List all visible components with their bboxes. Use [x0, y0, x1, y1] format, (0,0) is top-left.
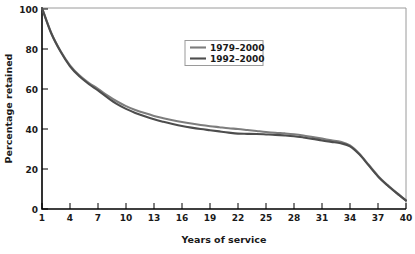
x-tick-label: 31: [316, 213, 329, 223]
x-tick-labels: 1 4 7 10 13 16 19 22 25 28 31 34 37 40: [39, 213, 412, 223]
y-tick-label: 40: [25, 125, 38, 135]
y-tick-labels: 100 80 60 40 20 0: [19, 5, 38, 215]
x-tick-label: 4: [67, 213, 73, 223]
y-tick-label: 0: [32, 205, 38, 215]
series-line-1: [42, 8, 406, 201]
y-tick-marks: [42, 9, 48, 209]
x-tick-label: 40: [400, 213, 413, 223]
axis-lines: [42, 8, 406, 209]
legend-label-series-0: 1979–2000: [210, 43, 265, 53]
data-series-layer: [42, 8, 406, 201]
x-tick-label: 7: [95, 213, 101, 223]
y-tick-label: 60: [25, 85, 38, 95]
x-tick-label: 28: [288, 213, 301, 223]
x-axis-title: Years of service: [181, 234, 267, 245]
y-tick-label: 20: [25, 165, 38, 175]
series-line-0: [42, 8, 406, 200]
x-tick-label: 10: [120, 213, 133, 223]
x-tick-marks: [42, 203, 406, 209]
x-tick-label: 13: [148, 213, 161, 223]
x-tick-label: 16: [176, 213, 189, 223]
x-tick-label: 25: [260, 213, 273, 223]
x-tick-label: 37: [372, 213, 385, 223]
legend: 1979–2000 1992–2000: [185, 41, 265, 66]
x-tick-label: 1: [39, 213, 45, 223]
y-tick-label: 100: [19, 5, 38, 15]
legend-label-series-1: 1992–2000: [210, 54, 265, 64]
y-axis-title: Percentage retained: [3, 54, 14, 164]
x-tick-label: 22: [232, 213, 245, 223]
chart-figure: 100 80 60 40 20 0 1 4: [0, 0, 415, 254]
line-chart: 100 80 60 40 20 0 1 4: [0, 0, 415, 254]
x-tick-label: 34: [344, 213, 357, 223]
y-tick-label: 80: [25, 45, 38, 55]
x-tick-label: 19: [204, 213, 217, 223]
plot-frame: [42, 8, 406, 209]
